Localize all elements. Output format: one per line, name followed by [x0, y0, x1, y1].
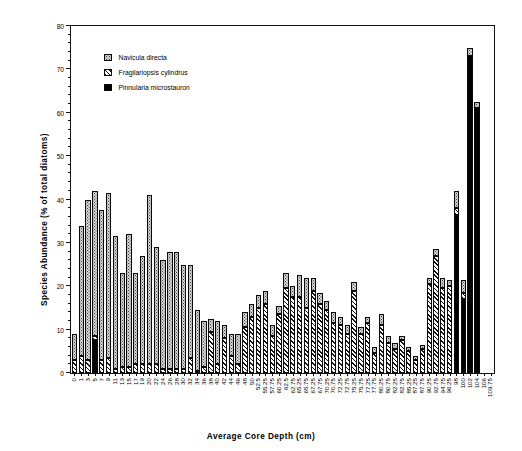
bar-segment	[167, 252, 172, 369]
bar-segment	[433, 249, 438, 256]
bar-segment	[290, 286, 295, 297]
y-axis-tick	[68, 355, 71, 356]
bar	[283, 273, 288, 373]
bar	[331, 312, 336, 373]
x-axis-tick	[109, 373, 110, 376]
bar-segment	[283, 273, 288, 288]
y-axis-tick	[68, 233, 71, 234]
x-axis-tick-label: 15	[126, 378, 132, 385]
legend-item-fragilariopsis-cylindrus: Fragilariopsis cylindrus	[104, 66, 190, 79]
legend-item-navicula-directa: Navicula directa	[104, 51, 190, 64]
bar-segment	[99, 210, 104, 360]
x-axis-tick	[402, 373, 403, 376]
bar-segment	[106, 193, 111, 358]
bar-segment	[263, 304, 268, 373]
bar	[147, 195, 152, 373]
bar-segment	[386, 343, 391, 373]
bar-segment	[440, 288, 445, 373]
bar-segment	[447, 280, 452, 287]
bar-segment	[72, 360, 77, 373]
y-axis-tick-label: 30	[57, 239, 64, 246]
x-axis-tick-label: 3	[85, 378, 91, 381]
y-axis-tick-label: 10	[57, 326, 64, 333]
bar-segment	[345, 334, 350, 373]
x-axis-tick	[163, 373, 164, 376]
legend-swatch-icon-fragilariopsis	[104, 69, 112, 77]
bar-segment	[372, 347, 377, 354]
x-axis-tick-label: 48	[242, 378, 248, 385]
x-axis-tick	[368, 373, 369, 376]
bar-segment	[147, 195, 152, 364]
bar-segment	[276, 314, 281, 373]
bar	[249, 304, 254, 373]
x-axis-tick	[334, 373, 335, 376]
bar	[222, 325, 227, 373]
bar	[454, 191, 459, 373]
y-axis-tick	[68, 225, 71, 226]
bar	[420, 345, 425, 373]
bar-segment	[345, 325, 350, 334]
y-axis-tick	[68, 86, 71, 87]
x-axis-tick	[450, 373, 451, 376]
bar-segment	[256, 295, 261, 308]
bar-segment	[317, 293, 322, 304]
bar-segment	[406, 351, 411, 373]
bar-segment	[242, 327, 247, 373]
bar-segment	[317, 304, 322, 373]
bar	[72, 334, 77, 373]
bar-segment	[461, 293, 466, 300]
x-axis-tick	[238, 373, 239, 376]
bar	[317, 293, 322, 373]
bar	[99, 210, 104, 373]
x-axis-tick-label: 36	[201, 378, 207, 385]
bar-segment	[113, 236, 118, 368]
x-axis-tick	[231, 373, 232, 376]
bar-segment	[222, 338, 227, 373]
x-axis-tick	[306, 373, 307, 376]
bar	[85, 200, 90, 374]
bar-segment	[386, 336, 391, 343]
legend-swatch-icon-pinnularia	[104, 84, 112, 92]
bar-segment	[290, 297, 295, 373]
x-axis-tick	[477, 373, 478, 376]
legend-label-pinnularia: Pinnularia microstauron	[119, 84, 190, 91]
bar-segment	[311, 291, 316, 373]
bar	[195, 310, 200, 373]
x-axis-tick	[122, 373, 123, 376]
chart-figure: Species Abundance (% of total diatoms) A…	[0, 0, 522, 451]
bar-segment	[365, 317, 370, 324]
y-axis-tick	[68, 363, 71, 364]
x-axis-tick	[361, 373, 362, 376]
bar	[92, 191, 97, 373]
bar	[461, 280, 466, 373]
y-axis-tick	[68, 251, 71, 252]
x-axis-tick-label: 67.75	[317, 378, 323, 393]
y-axis-tick	[68, 77, 71, 78]
bar	[379, 314, 384, 373]
bar-segment	[147, 364, 152, 373]
legend-label-fragilariopsis: Fragilariopsis cylindrus	[119, 69, 188, 76]
bar	[365, 317, 370, 373]
y-axis-tick	[66, 199, 71, 200]
bar-segment	[113, 369, 118, 373]
bar-segment	[140, 364, 145, 373]
bar	[433, 249, 438, 373]
y-axis-tick	[68, 60, 71, 61]
bar	[304, 278, 309, 373]
bar-segment	[338, 325, 343, 373]
bar-segment	[174, 252, 179, 369]
plot-area: 01020304050607080 0135791113151719202224…	[70, 25, 495, 374]
x-axis-tick	[491, 373, 492, 376]
x-axis-tick	[340, 373, 341, 376]
x-axis-tick	[354, 373, 355, 376]
bar-segment	[413, 360, 418, 373]
bar	[338, 317, 343, 373]
bar-segment	[242, 312, 247, 327]
bar-segment	[351, 282, 356, 291]
x-axis-tick	[313, 373, 314, 376]
bar-segment	[215, 364, 220, 373]
bar-segment	[474, 108, 479, 373]
x-axis-tick-label: 5	[92, 378, 98, 381]
bar	[113, 236, 118, 373]
bar	[229, 334, 234, 373]
